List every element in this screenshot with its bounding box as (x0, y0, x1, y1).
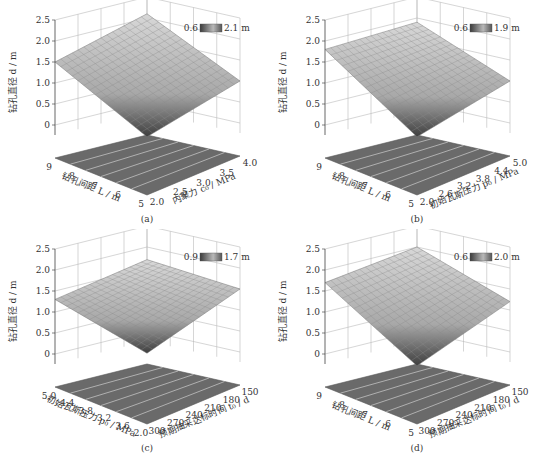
chart-panel-d: 00.51.01.52.02.5钻孔直径 d / m98765钻孔间距 L / … (270, 229, 540, 458)
z-tick-label: 1.0 (36, 78, 51, 88)
y-tick-label: 5 (408, 199, 414, 209)
z-tick-label: 1.0 (306, 78, 321, 88)
z-axis-label: 钻孔直径 d / m (7, 280, 18, 342)
z-axis: 00.51.01.52.02.5钻孔直径 d / m (7, 15, 55, 135)
chart-panel-b: 00.51.01.52.02.5钻孔直径 d / m98765钻孔间距 L / … (270, 0, 540, 229)
surface-plot-c: 00.51.01.52.02.5钻孔直径 d / m5.04.43.83.23.… (0, 229, 270, 458)
z-tick-label: 1.0 (306, 307, 321, 317)
z-tick-label: 2.0 (306, 36, 321, 46)
z-tick-label: 0 (314, 349, 320, 359)
x-tick-label: 2.0 (150, 197, 165, 207)
z-tick-label: 2.0 (306, 265, 321, 275)
surface-plot-b: 00.51.01.52.02.5钻孔直径 d / m98765钻孔间距 L / … (270, 0, 540, 229)
z-axis-label: 钻孔直径 d / m (7, 51, 18, 113)
z-tick-label: 1.5 (306, 57, 321, 67)
z-tick-label: 2.5 (306, 15, 321, 25)
surface-plot-a: 00.51.01.52.02.5钻孔直径 d / m98765钻孔间距 L / … (0, 0, 270, 229)
subfigure-caption: (b) (411, 214, 424, 224)
z-axis-label: 钻孔直径 d / m (277, 280, 288, 342)
z-axis: 00.51.01.52.02.5钻孔直径 d / m (277, 15, 325, 135)
legend-max-label: 1.7 m (224, 252, 250, 262)
legend-min-label: 0.6 (454, 252, 469, 262)
legend-max-label: 1.9 m (494, 23, 520, 33)
subfigure-caption: (a) (141, 214, 153, 224)
legend-min-label: 0.6 (184, 23, 199, 33)
z-tick-label: 2.5 (36, 15, 51, 25)
z-axis: 00.51.01.52.02.5钻孔直径 d / m (7, 244, 55, 364)
z-axis: 00.51.01.52.02.5钻孔直径 d / m (277, 244, 325, 364)
z-tick-label: 2.5 (36, 244, 51, 254)
z-tick-label: 2.0 (36, 36, 51, 46)
colorbar-legend: 0.62.1 m (184, 23, 251, 33)
legend-min-label: 0.9 (184, 252, 199, 262)
z-tick-label: 0 (44, 120, 50, 130)
z-axis-label: 钻孔直径 d / m (277, 51, 288, 113)
y-tick-label: 9 (46, 162, 52, 172)
colorbar-legend: 0.62.0 m (454, 252, 521, 262)
z-tick-label: 1.5 (306, 286, 321, 296)
x-tick-label: 4.0 (243, 158, 258, 168)
z-tick-label: 1.0 (36, 307, 51, 317)
y-tick-label: 5 (138, 199, 144, 209)
colorbar-legend: 0.91.7 m (184, 252, 251, 262)
surface-plot-d: 00.51.01.52.02.5钻孔直径 d / m98765钻孔间距 L / … (270, 229, 540, 458)
z-tick-label: 1.5 (36, 286, 51, 296)
y-tick-label: 9 (316, 162, 322, 172)
legend-max-label: 2.1 m (224, 23, 250, 33)
z-tick-label: 2.5 (306, 244, 321, 254)
y-tick-label: 5 (408, 428, 414, 438)
subfigure-caption: (d) (411, 443, 424, 453)
z-tick-label: 0.5 (306, 99, 321, 109)
z-tick-label: 0.5 (306, 328, 321, 338)
z-tick-label: 2.0 (36, 265, 51, 275)
subfigure-caption: (c) (141, 443, 153, 453)
chart-panel-c: 00.51.01.52.02.5钻孔直径 d / m5.04.43.83.23.… (0, 229, 270, 458)
z-tick-label: 0 (44, 349, 50, 359)
legend-min-label: 0.6 (454, 23, 469, 33)
legend-max-label: 2.0 m (494, 252, 520, 262)
z-tick-label: 1.5 (36, 57, 51, 67)
chart-panel-a: 00.51.01.52.02.5钻孔直径 d / m98765钻孔间距 L / … (0, 0, 270, 229)
z-tick-label: 0 (314, 120, 320, 130)
colorbar-legend: 0.61.9 m (454, 23, 521, 33)
z-tick-label: 0.5 (36, 328, 51, 338)
z-tick-label: 0.5 (36, 99, 51, 109)
y-tick-label: 9 (316, 391, 322, 401)
